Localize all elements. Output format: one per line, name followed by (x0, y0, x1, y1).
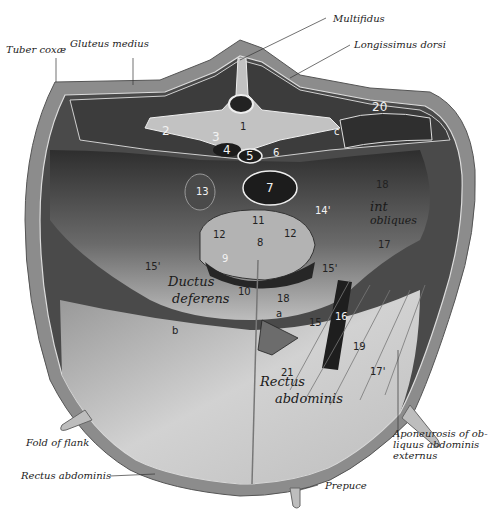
ref-18b: 18 (277, 294, 290, 304)
ref-15b: 15' (322, 264, 337, 274)
ref-1: 1 (240, 122, 246, 132)
handwritten-abdominis: abdominis (275, 392, 343, 405)
ref-4: 4 (223, 145, 231, 155)
ref-6: 6 (273, 148, 279, 158)
label-rectus-abdominis: Rectus abdominis (21, 470, 111, 481)
label-fold-of-flank: Fold of flank (26, 437, 89, 448)
handwritten-ductus: Ductus (168, 275, 214, 288)
ref-b: b (172, 326, 178, 336)
handwritten-obliques: obliques (370, 214, 417, 227)
ref-16: 16 (335, 312, 348, 322)
ref-12b: 12 (284, 229, 297, 239)
handwritten-int: int (370, 200, 388, 213)
prepuce-shape (290, 488, 300, 508)
ref-3: 3 (212, 132, 220, 142)
label-tuber-coxae: Tuber coxæ (6, 44, 66, 55)
label-multifidus: Multifidus (333, 13, 385, 24)
ref-7: 7 (266, 183, 274, 193)
label-prepuce: Prepuce (325, 480, 367, 491)
ref-10: 10 (238, 287, 251, 297)
spinal-canal (229, 95, 253, 113)
ref-11: 11 (252, 216, 265, 226)
ref-12a: 12 (213, 230, 226, 240)
handwritten-deferens: deferens (172, 292, 229, 305)
label-longissimus-dorsi: Longissimus dorsi (354, 39, 446, 50)
ref-18a: 18 (376, 180, 389, 190)
ref-17: 17 (378, 240, 391, 250)
ref-15c: 15 (309, 318, 322, 328)
ref-2: 2 (162, 126, 170, 136)
ref-13: 13 (196, 187, 209, 197)
ref-9: 9 (222, 254, 228, 264)
ref-20: 20 (372, 102, 387, 112)
ref-c: c (334, 127, 340, 137)
ref-17b: 17' (370, 367, 385, 377)
label-aponeurosis: Aponeurosis of ob- liquus abdominis exte… (393, 428, 489, 461)
label-gluteus-medius: Gluteus medius (70, 38, 149, 49)
ref-5: 5 (246, 151, 254, 161)
ref-8: 8 (257, 238, 263, 248)
ref-a: a (276, 309, 282, 319)
handwritten-rectus: Rectus (260, 375, 305, 388)
ref-15a: 15' (145, 262, 160, 272)
ref-14: 14' (315, 206, 330, 216)
ref-19: 19 (353, 342, 366, 352)
